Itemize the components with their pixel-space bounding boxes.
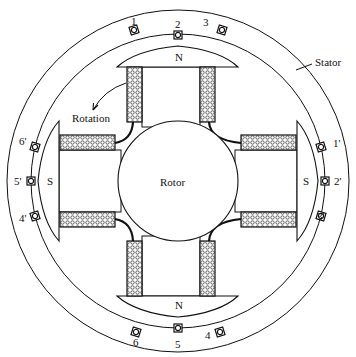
slot-label-5: 5 [175,339,181,350]
pole-label-bottom: N [175,300,183,311]
slot-label-1: 1 [131,16,137,27]
slot-label-4prime: 4' [19,213,26,224]
pole-label-right: S [303,176,309,187]
rotation-label: Rotation [72,113,110,124]
coil-right-bottom [241,212,296,227]
coil-bottom-right [200,241,215,296]
slot-label-2prime: 2' [334,176,341,187]
coil-right-top [241,135,296,150]
coil-top-left [127,67,142,122]
coil-bottom-left [127,241,142,296]
rotation-arrow [93,83,126,110]
coil-left-bottom [60,212,115,227]
slot-label-1prime: 1' [333,138,340,149]
slot-label-5prime: 5' [14,176,21,187]
coil-left-top [60,135,115,150]
slot-label-6: 6 [133,337,139,348]
stator-label: Stator [315,57,341,68]
slot-label-4: 4 [205,330,211,341]
rotor-label: Rotor [160,177,185,188]
coil-top-right [200,67,215,122]
slot-label-3: 3 [203,17,209,28]
slot-label-2: 2 [175,19,181,30]
slot-label-3prime: 3' [317,211,324,222]
slot-label-6prime: 6' [19,136,26,147]
pole-label-top: N [175,52,183,63]
pole-label-left: S [47,176,53,187]
